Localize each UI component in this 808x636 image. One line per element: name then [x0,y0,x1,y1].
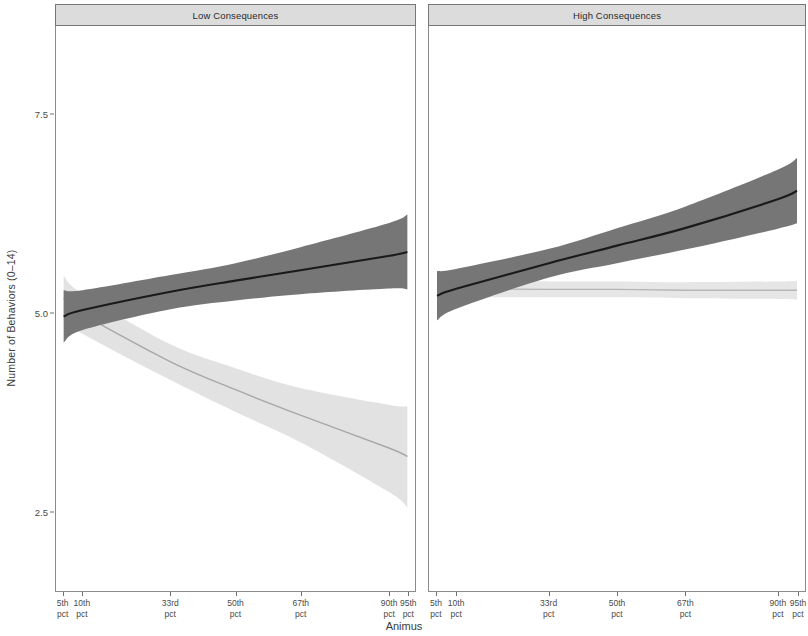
x-tick-label-line2: pct [529,609,569,620]
x-tick-label: 33rdpct [150,598,190,619]
x-tick-label-line1: 95th [790,598,807,608]
y-tick-mark [50,512,54,513]
x-tick-mark [778,592,779,596]
plot-area-low-consequences [56,26,415,591]
x-tick-mark [408,592,409,596]
x-tick-label-line2: pct [281,609,321,620]
facet-plot-svg [56,26,415,591]
x-tick-mark [63,592,64,596]
x-tick-label-line2: pct [778,609,808,620]
y-tick-mark [50,312,54,313]
x-tick-label: 50thpct [597,598,637,619]
x-tick-label-line2: pct [436,609,476,620]
x-tick-label: 10thpct [62,598,102,619]
x-tick-label-line2: pct [150,609,190,620]
x-tick-label: 10thpct [436,598,476,619]
panel-body-low-consequences [55,26,416,592]
x-tick-label-line1: 33rd [540,598,557,608]
panel-strip-label: High Consequences [573,10,661,21]
y-tick-label: 5.0 [14,307,48,318]
x-tick-mark [170,592,171,596]
x-tick-mark [301,592,302,596]
panel-strip-high-consequences: High Consequences [428,4,806,26]
x-tick-label-line2: pct [62,609,102,620]
x-tick-mark [456,592,457,596]
x-tick-mark [685,592,686,596]
x-tick-label: 33rdpct [529,598,569,619]
y-tick-label: 2.5 [14,507,48,518]
facet-plot-svg [429,26,805,591]
x-tick-mark [389,592,390,596]
x-tick-mark [549,592,550,596]
x-tick-label: 95thpct [778,598,808,619]
x-axis-title: Animus [0,620,808,632]
panel-strip-low-consequences: Low Consequences [55,4,416,26]
x-tick-mark [436,592,437,596]
x-tick-label-line1: 33rd [162,598,179,608]
x-tick-label-line1: 95th [400,598,417,608]
x-tick-mark [798,592,799,596]
x-tick-label-line1: 50th [609,598,626,608]
x-tick-label-line2: pct [665,609,705,620]
x-tick-mark [236,592,237,596]
x-tick-label-line1: 67th [677,598,694,608]
x-tick-label: 50thpct [216,598,256,619]
panel-high-consequences: High Consequences [428,4,806,592]
panel-low-consequences: Low Consequences [55,4,416,592]
plot-area-high-consequences [429,26,805,591]
x-tick-mark [617,592,618,596]
x-tick-label-line1: 67th [293,598,310,608]
x-tick-label-line2: pct [597,609,637,620]
x-tick-label: 67thpct [665,598,705,619]
x-tick-mark [82,592,83,596]
y-tick-label: 7.5 [14,108,48,119]
panel-body-high-consequences [428,26,806,592]
x-tick-label: 67thpct [281,598,321,619]
x-tick-label-line1: 50th [227,598,244,608]
x-tick-label-line1: 10th [74,598,91,608]
panel-strip-label: Low Consequences [193,10,279,21]
facet-chart-figure: Number of Behaviors (0–14) 7.55.02.5 Low… [0,0,808,636]
x-tick-label-line1: 10th [448,598,465,608]
y-tick-mark [50,113,54,114]
x-tick-label-line2: pct [216,609,256,620]
